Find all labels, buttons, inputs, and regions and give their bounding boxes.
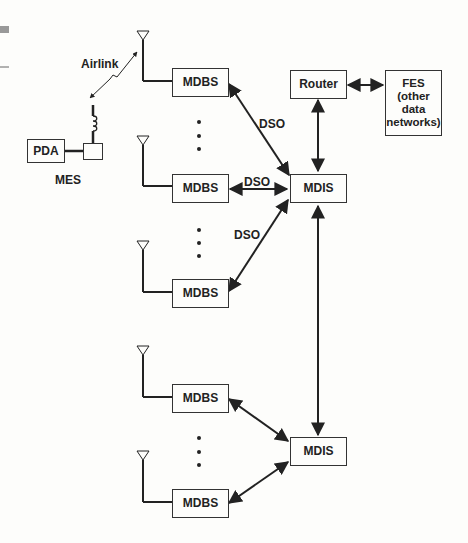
dso-label-2: DSO xyxy=(244,175,270,189)
antenna-icon xyxy=(137,31,172,502)
ellipsis-dot xyxy=(197,254,201,258)
mdis-node-2: MDIS xyxy=(290,437,347,466)
ellipsis-dot xyxy=(197,436,201,440)
page-mark xyxy=(0,26,9,33)
coil-icon xyxy=(93,116,97,131)
ellipsis-dot xyxy=(197,463,201,467)
airlink-label: Airlink xyxy=(81,57,118,71)
mdbs-node-4: MDBS xyxy=(172,384,229,413)
mdbs-node-1: MDBS xyxy=(172,68,229,97)
modem-node xyxy=(83,143,103,160)
router-node: Router xyxy=(290,70,347,99)
dso-label-1: DSO xyxy=(259,117,285,131)
ellipsis-dot xyxy=(197,134,201,138)
fes-node: FES (other data networks) xyxy=(385,70,442,136)
mdbs-node-2: MDBS xyxy=(172,174,229,203)
ellipsis-dot xyxy=(197,147,201,151)
ellipsis-dot xyxy=(197,228,201,232)
ellipsis-dot xyxy=(197,450,201,454)
mdbs-node-3: MDBS xyxy=(172,279,229,308)
dso-label-3: DSO xyxy=(234,228,260,242)
ellipsis-dot xyxy=(197,241,201,245)
ellipsis-dot xyxy=(197,120,201,124)
mes-label: MES xyxy=(55,173,81,187)
mdbs-node-5: MDBS xyxy=(172,489,229,518)
pda-node: PDA xyxy=(27,139,65,163)
mdis-node-1: MDIS xyxy=(290,174,347,203)
